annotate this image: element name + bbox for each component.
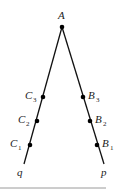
label-q: q <box>17 166 23 178</box>
label-B2: B <box>95 113 102 125</box>
label-B1: B <box>102 137 109 149</box>
label-C2-sub: 2 <box>26 120 30 128</box>
label-C2: C <box>18 113 26 125</box>
label-B2-sub: 2 <box>103 120 107 128</box>
diagram-svg: A C 3 C 2 C 1 B 3 B 2 B 1 q p <box>0 0 124 192</box>
point-C1 <box>28 143 33 148</box>
point-C3 <box>41 95 46 100</box>
label-C1-sub: 1 <box>18 144 22 152</box>
label-B1-sub: 1 <box>110 144 114 152</box>
label-C3-sub: 3 <box>33 96 37 104</box>
label-C1: C <box>10 137 18 149</box>
label-p: p <box>100 166 107 178</box>
point-A <box>60 25 65 30</box>
label-C3: C <box>25 89 33 101</box>
label-A: A <box>57 9 65 21</box>
point-B3 <box>81 95 86 100</box>
label-B3: B <box>88 89 95 101</box>
angle-diagram: A C 3 C 2 C 1 B 3 B 2 B 1 q p <box>0 0 124 192</box>
label-B3-sub: 3 <box>96 96 100 104</box>
point-B2 <box>88 119 93 124</box>
point-C2 <box>35 119 40 124</box>
point-B1 <box>95 143 100 148</box>
